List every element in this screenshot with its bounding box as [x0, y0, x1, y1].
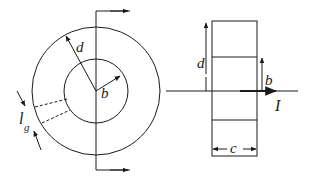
cross-section-rect	[212, 21, 257, 156]
label-I: I	[274, 97, 281, 114]
label-d-front: d	[76, 39, 84, 55]
gap-line-2	[42, 110, 70, 123]
gap-line-1	[35, 99, 67, 107]
label-lg-sub: g	[24, 121, 30, 133]
label-b-side: b	[265, 72, 273, 88]
gap-arrow-bottom	[34, 131, 41, 150]
label-b-front: b	[101, 85, 109, 101]
side-view	[166, 21, 298, 156]
toroid-diagram: d b l g d b c I	[0, 0, 313, 180]
front-view	[17, 11, 160, 170]
label-c: c	[230, 140, 237, 156]
label-d-side: d	[197, 55, 205, 71]
gap-arrow-top	[17, 91, 25, 106]
